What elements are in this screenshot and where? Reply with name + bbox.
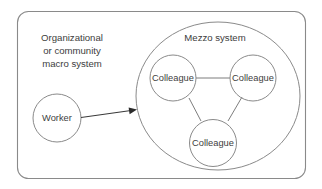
worker-to-mezzo-arrow-line: [81, 111, 131, 118]
worker-to-mezzo-arrow-head: [129, 107, 137, 114]
colleague-label-top-left: Colleague: [152, 73, 194, 83]
diagram-canvas: Organizational or community macro system…: [0, 0, 322, 189]
systems-diagram: Organizational or community macro system…: [0, 0, 322, 189]
worker-label: Worker: [42, 113, 72, 123]
colleague-label-bottom: Colleague: [192, 138, 234, 148]
link-topleft-bottom: [189, 98, 201, 121]
macro-system-label-line1: Organizational: [41, 32, 103, 43]
macro-system-label-line3: macro system: [42, 58, 102, 69]
macro-system-label-line2: or community: [43, 45, 101, 56]
mezzo-system-label: Mezzo system: [184, 32, 245, 43]
link-topright-bottom: [228, 97, 242, 121]
colleague-label-top-right: Colleague: [232, 73, 274, 83]
